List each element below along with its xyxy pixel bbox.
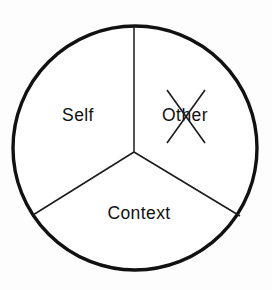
- diagram-canvas: Self Other Context: [0, 0, 272, 290]
- sector-label-self: Self: [62, 105, 94, 125]
- outer-circle: [13, 26, 257, 270]
- circle-diagram: Self Other Context: [0, 0, 272, 290]
- sector-label-context: Context: [107, 203, 170, 223]
